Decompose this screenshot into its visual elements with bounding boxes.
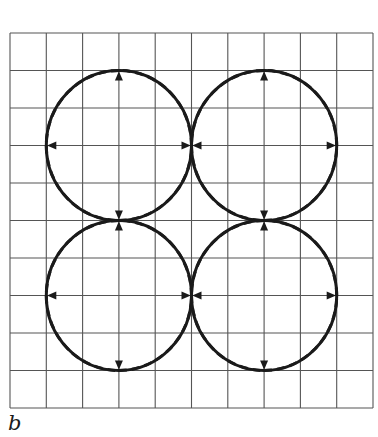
arrowhead-icon bbox=[115, 361, 123, 370]
arrowhead-icon bbox=[182, 292, 191, 300]
arrowhead-icon bbox=[192, 142, 201, 150]
arrowhead-icon bbox=[192, 292, 201, 300]
arrowhead-icon bbox=[327, 292, 336, 300]
arrowhead-icon bbox=[115, 211, 123, 220]
arrowhead-icon bbox=[327, 142, 336, 150]
grid-circles-diagram bbox=[10, 33, 373, 408]
diagram-figure bbox=[10, 33, 373, 408]
arrowhead-icon bbox=[115, 221, 123, 230]
arrowhead-icon bbox=[47, 142, 56, 150]
arrowhead-icon bbox=[260, 221, 268, 230]
arrowhead-icon bbox=[182, 142, 191, 150]
arrowhead-icon bbox=[260, 211, 268, 220]
arrowhead-icon bbox=[260, 71, 268, 80]
grid-lines bbox=[10, 33, 373, 408]
arrowhead-icon bbox=[47, 292, 56, 300]
arrowhead-icon bbox=[115, 71, 123, 80]
figure-label: b bbox=[8, 411, 21, 435]
arrowhead-icon bbox=[260, 361, 268, 370]
